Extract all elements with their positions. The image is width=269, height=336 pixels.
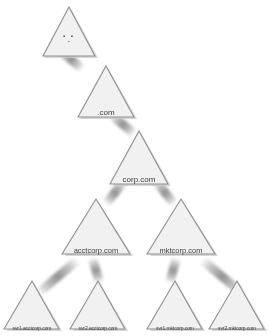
- node-acctcorp-label: acctcorp.com: [57, 247, 135, 255]
- node-svr1-mktcorp[interactable]: svr1.mktcorp.com: [143, 278, 207, 333]
- node-mktcorp[interactable]: mktcorp.com: [142, 196, 220, 258]
- node-svr1-mktcorp-label: svr1.mktcorp.com: [143, 326, 207, 331]
- node-root[interactable]: ▪ ▪ ▪: [38, 4, 100, 60]
- node-acctcorp[interactable]: acctcorp.com: [57, 196, 135, 258]
- node-mktcorp-label: mktcorp.com: [142, 247, 220, 255]
- node-svr1-acctcorp-label: svr1.acctcorp.com: [0, 326, 64, 331]
- node-svr2-acctcorp[interactable]: svr2.acctcorp.com: [66, 278, 130, 333]
- root-zone-mark: ▪ ▪ ▪: [38, 33, 100, 44]
- node-svr1-acctcorp[interactable]: svr1.acctcorp.com: [0, 278, 64, 333]
- node-com-label: .com: [73, 109, 139, 117]
- node-svr2-mktcorp-label: svr2.mktcorp.com: [205, 326, 269, 331]
- root-mark-row-2: ▪: [38, 40, 100, 44]
- node-com[interactable]: .com: [73, 63, 139, 121]
- dns-hierarchy-diagram: ▪ ▪ ▪ .com corp.com: [0, 0, 269, 336]
- triangle-icon: [38, 4, 100, 60]
- node-corpcom-label: corp.com: [105, 176, 173, 184]
- node-svr2-mktcorp[interactable]: svr2.mktcorp.com: [205, 278, 269, 333]
- node-corpcom[interactable]: corp.com: [105, 128, 173, 188]
- node-svr2-acctcorp-label: svr2.acctcorp.com: [66, 326, 130, 331]
